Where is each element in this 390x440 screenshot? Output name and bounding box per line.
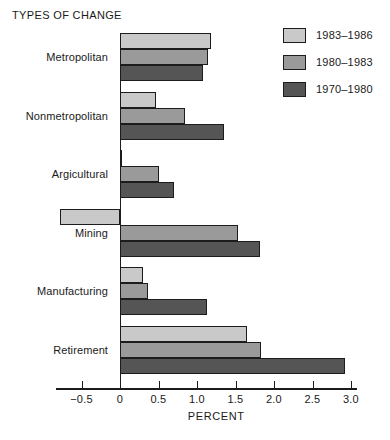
x-axis-tick [236, 381, 237, 388]
category-label: Retirement [53, 344, 108, 356]
bar [120, 49, 208, 65]
plot-area: MetropolitanNonmetropolitanArgiculturalM… [0, 0, 390, 440]
x-axis-tick [197, 381, 198, 388]
x-axis-tick [120, 381, 121, 388]
zero-axis-line [120, 33, 121, 388]
bar [60, 209, 120, 225]
category-label: Mining [75, 227, 108, 239]
bar [120, 358, 345, 374]
x-axis-tick [82, 381, 83, 388]
bar [120, 267, 143, 283]
bar [120, 182, 174, 198]
x-axis-tick [274, 381, 275, 388]
x-axis-tick [351, 381, 352, 388]
x-axis-tick [313, 381, 314, 388]
x-axis-line [56, 388, 357, 390]
x-axis-tick-label: 2.0 [266, 393, 282, 405]
category-label: Metropolitan [46, 51, 108, 63]
bar [120, 326, 247, 342]
x-axis-tick-label: 1.0 [189, 393, 205, 405]
bar [120, 166, 159, 182]
x-axis-tick-label: 0 [117, 393, 123, 405]
x-axis-tick [159, 381, 160, 388]
category-label: Nonmetropolitan [26, 110, 108, 122]
x-axis-tick-label: 1.5 [228, 393, 244, 405]
bar [120, 65, 203, 81]
bar [120, 225, 238, 241]
x-axis-title: PERCENT [188, 410, 245, 422]
bar [120, 299, 207, 315]
x-axis-tick-label: 0.5 [151, 393, 167, 405]
x-axis-tick-label: 2.5 [305, 393, 321, 405]
bar [120, 241, 260, 257]
bar [120, 92, 156, 108]
bar [120, 342, 261, 358]
x-axis-tick-label: −0.5 [70, 393, 93, 405]
bar [120, 124, 224, 140]
bar [120, 108, 185, 124]
bar [120, 33, 211, 49]
x-axis-tick-label: 3.0 [343, 393, 359, 405]
bar [120, 283, 148, 299]
category-label: Argicultural [52, 168, 108, 180]
bar-chart: TYPES OF CHANGE 1983–1986 1980–1983 1970… [0, 0, 390, 440]
category-label: Manufacturing [37, 285, 108, 297]
